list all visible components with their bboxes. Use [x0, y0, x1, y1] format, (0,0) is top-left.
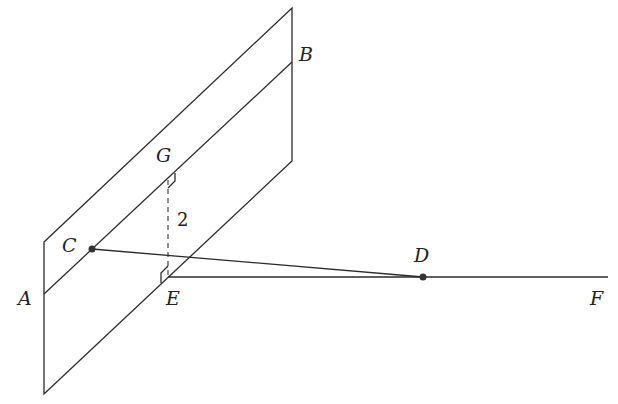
point-c — [89, 246, 96, 253]
label-c: C — [62, 234, 77, 256]
label-g: G — [156, 144, 171, 166]
label-a: A — [16, 287, 32, 309]
label-b: B — [298, 43, 313, 65]
label-e: E — [165, 287, 180, 309]
point-d — [420, 274, 427, 281]
geometry-diagram: A B C D E F G 2 — [0, 0, 618, 404]
line-ab — [44, 62, 292, 294]
distance-label: 2 — [177, 209, 188, 230]
label-d: D — [413, 244, 429, 266]
segment-cd — [92, 249, 423, 277]
label-f: F — [589, 287, 604, 309]
